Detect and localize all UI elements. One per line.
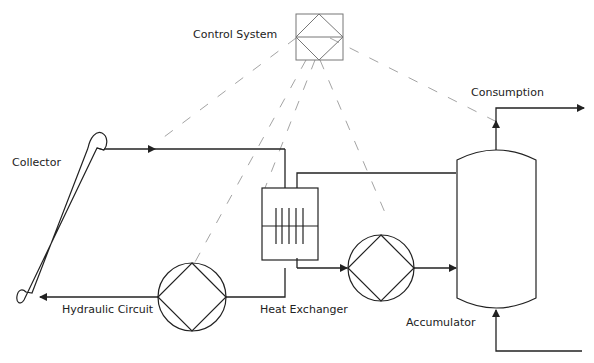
label-control-system: Control System (193, 28, 277, 41)
label-consumption: Consumption (471, 86, 544, 99)
heat-exchanger-icon (262, 188, 318, 260)
label-collector: Collector (12, 156, 61, 169)
label-heat-exchanger: Heat Exchanger (260, 303, 348, 316)
control-system-icon (296, 14, 343, 60)
pump-2-icon (348, 235, 414, 301)
label-accumulator: Accumulator (406, 316, 475, 329)
label-hydraulic-circuit: Hydraulic Circuit (62, 303, 153, 316)
accumulator-icon (457, 150, 536, 308)
pump-1-icon (158, 263, 226, 331)
control-signal-lines (160, 38, 497, 262)
